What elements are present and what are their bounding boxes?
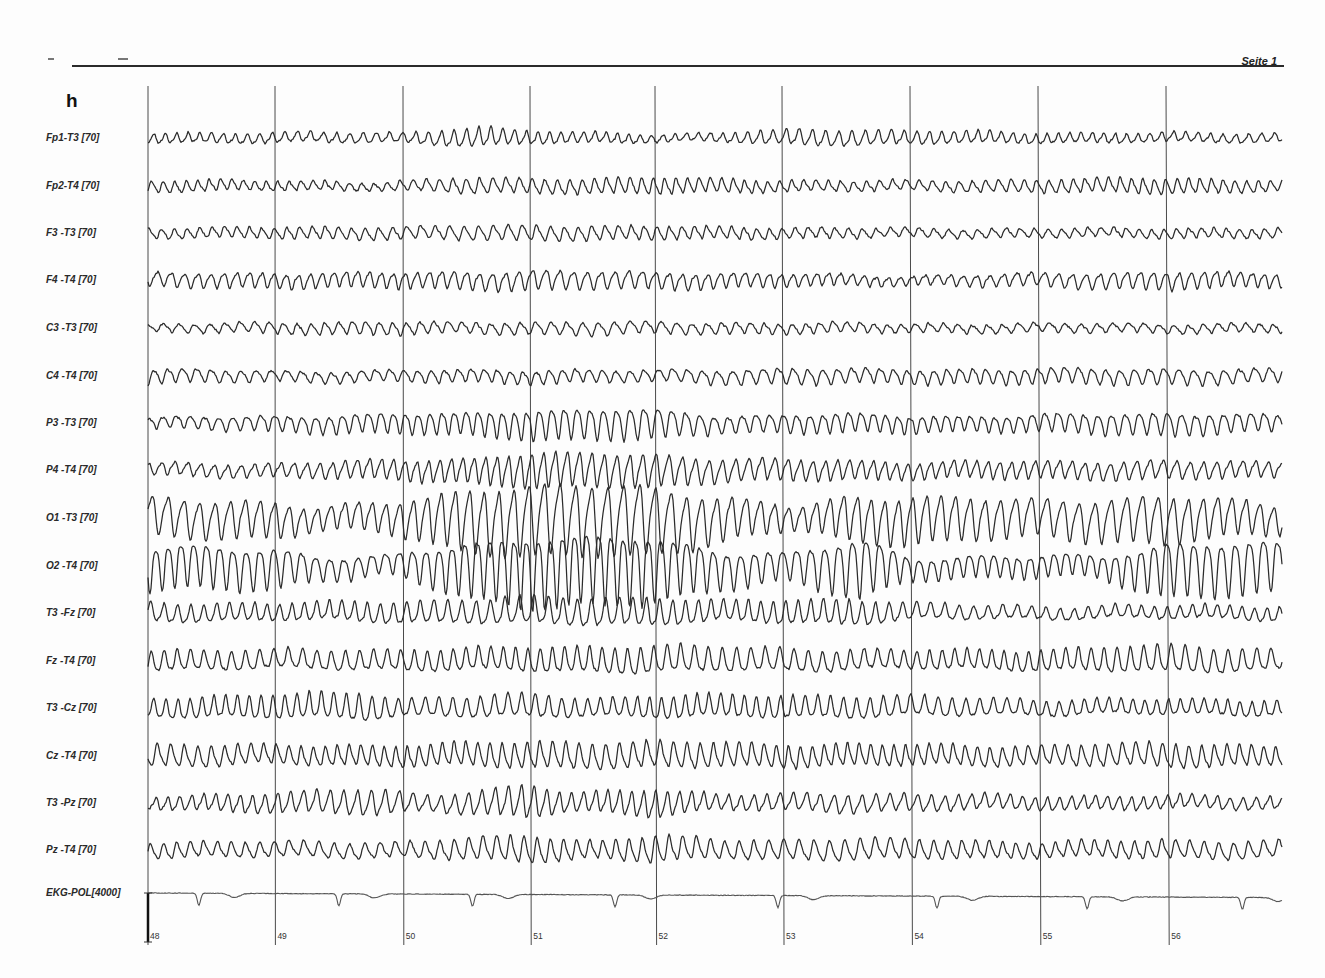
- eeg-trace: [148, 177, 1282, 196]
- eeg-trace: [148, 739, 1282, 769]
- eeg-trace: [148, 126, 1282, 147]
- eeg-trace: [148, 595, 1282, 626]
- eeg-trace: [148, 270, 1282, 292]
- eeg-trace: [148, 410, 1282, 443]
- eeg-trace: [148, 484, 1282, 559]
- second-gridline: [655, 86, 657, 945]
- eeg-trace: [148, 690, 1282, 720]
- eeg-trace: [148, 224, 1282, 241]
- eeg-trace: [148, 536, 1282, 611]
- eeg-trace: [148, 321, 1282, 337]
- second-gridline: [782, 86, 784, 945]
- eeg-trace: [148, 643, 1282, 674]
- ekg-trace: [148, 893, 1282, 909]
- eeg-trace: [148, 785, 1282, 818]
- second-gridline: [403, 86, 404, 945]
- eeg-trace: [148, 451, 1282, 489]
- second-gridline: [1038, 86, 1041, 945]
- eeg-trace: [148, 367, 1282, 386]
- eeg-page: Seite 1 h Fp1-T3 [70]Fp2-T4 [70]F3 -T3 […: [0, 0, 1325, 978]
- eeg-traces: [0, 0, 1325, 978]
- second-gridline: [910, 86, 912, 945]
- eeg-trace: [148, 834, 1282, 863]
- second-gridline: [530, 86, 531, 945]
